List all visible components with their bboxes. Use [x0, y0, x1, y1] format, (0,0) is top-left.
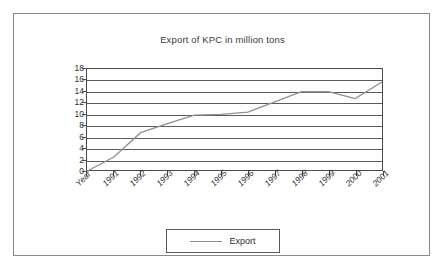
legend-line-swatch-export — [190, 241, 222, 242]
chart-legend: Export — [166, 229, 280, 253]
legend-label-export: Export — [229, 236, 255, 246]
x-axis-labels: Year199119921993199419951996199719981999… — [86, 176, 383, 222]
chart-screenshot: Export of KPC in million tons 1816141210… — [0, 0, 444, 271]
series-export-line — [87, 69, 382, 171]
y-axis-labels: 181614121086420 — [54, 62, 84, 177]
chart-frame: Export of KPC in million tons 1816141210… — [13, 13, 430, 256]
chart-title: Export of KPC in million tons — [14, 34, 431, 45]
plot-area — [86, 68, 383, 171]
